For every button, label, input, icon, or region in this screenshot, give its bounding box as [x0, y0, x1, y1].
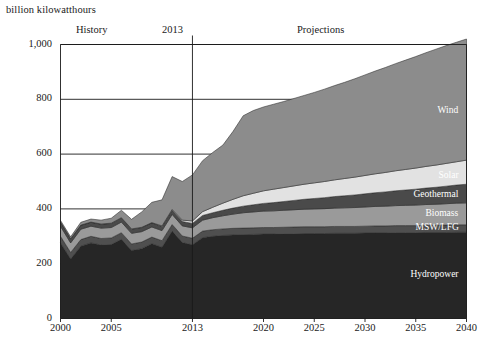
chart-container: billion kilowatthours History 2013 Proje…: [0, 0, 480, 349]
x-tick-label: 2030: [345, 322, 385, 333]
x-tick-label: 2035: [396, 322, 436, 333]
series-label-solar: Solar: [439, 170, 459, 180]
y-tick-label: 1,000: [8, 38, 52, 49]
x-tick-label: 2013: [172, 322, 212, 333]
y-tick-label: 800: [8, 92, 52, 103]
y-tick-label: 400: [8, 202, 52, 213]
series-label-hydropower: Hydropower: [411, 269, 459, 279]
x-tick-label: 2020: [244, 322, 284, 333]
x-tick-label: 2025: [294, 322, 334, 333]
series-label-wind: Wind: [438, 105, 459, 115]
x-tick-label: 2040: [447, 322, 480, 333]
series-label-biomass: Biomass: [426, 208, 459, 218]
stacked-area-plot: [0, 0, 480, 349]
series-label-msw: MSW/LFG: [416, 222, 459, 232]
y-tick-label: 600: [8, 147, 52, 158]
x-tick-label: 2005: [91, 322, 131, 333]
series-label-geothermal: Geothermal: [414, 189, 459, 199]
y-tick-label: 0: [8, 312, 52, 323]
y-tick-label: 200: [8, 257, 52, 268]
x-tick-label: 2000: [41, 322, 81, 333]
